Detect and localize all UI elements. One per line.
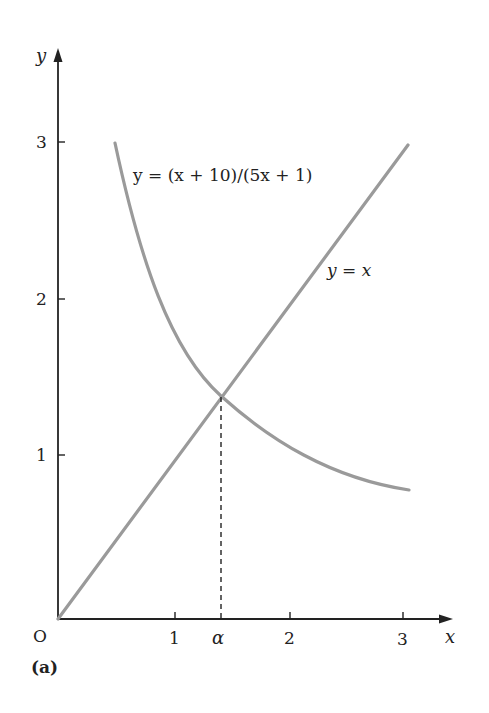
x-axis-label: x — [445, 626, 455, 647]
curve-label: y = (x + 10)/(5x + 1) — [132, 165, 312, 185]
origin-label: O — [33, 626, 47, 646]
line-y-equals-x — [58, 145, 408, 619]
x-axis-arrow-icon — [439, 615, 453, 624]
x-tick-label-1: 1 — [169, 628, 180, 648]
y-tick-label-1: 1 — [36, 445, 47, 465]
y-tick-label-3: 3 — [36, 132, 47, 152]
panel-label: (a) — [31, 657, 58, 677]
figure-canvas: y 3 2 1 O 1 α 2 3 x (a) y = (x + 10)/(5x… — [0, 0, 489, 713]
y-axis-label: y — [35, 45, 47, 66]
y-axis-arrow-icon — [54, 48, 63, 62]
x-tick-label-3: 3 — [397, 629, 408, 649]
alpha-label: α — [212, 627, 224, 648]
x-tick-label-2: 2 — [284, 628, 295, 648]
curve-rational-function — [115, 143, 409, 490]
y-tick-label-2: 2 — [36, 289, 47, 309]
line-label: y = x — [326, 260, 372, 280]
